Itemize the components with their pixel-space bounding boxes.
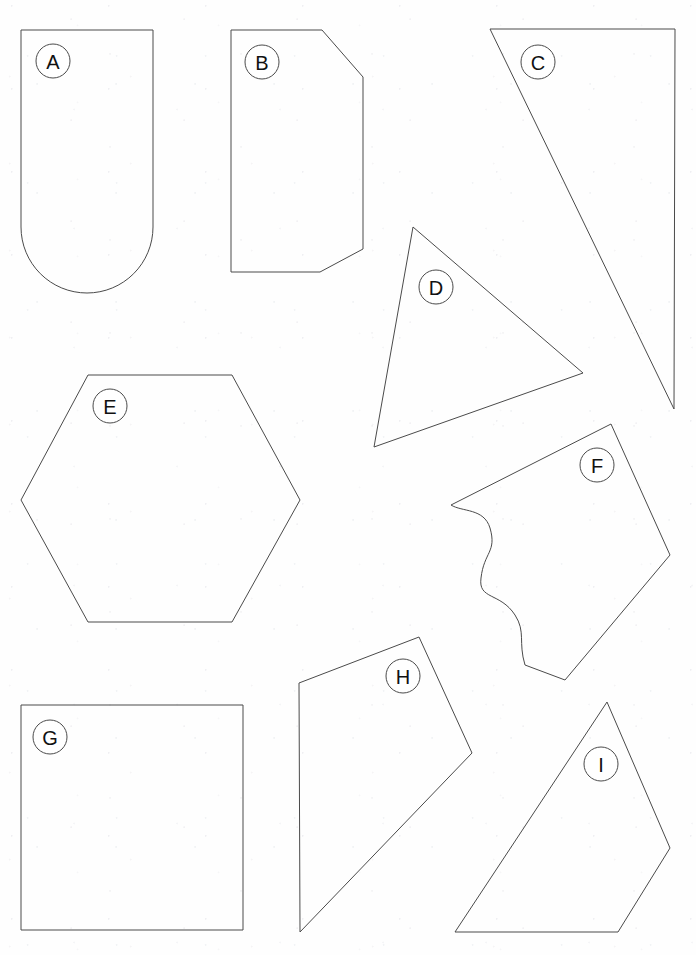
shape-a-label-badge: A: [36, 44, 70, 78]
shape-d-label-text: D: [429, 277, 443, 299]
shape-d-label-badge: D: [419, 270, 453, 304]
shape-d-outline: [374, 227, 583, 447]
shape-e-outline: [21, 375, 300, 622]
shape-h-outline: [299, 637, 472, 932]
shapes-canvas: ABCDEFGHI: [0, 0, 696, 955]
shape-h-label-badge: H: [386, 659, 420, 693]
shape-labels-group: ABCDEFGHI: [33, 44, 618, 781]
shape-i-label-text: I: [598, 754, 604, 776]
shape-f-outline: [451, 424, 670, 680]
shape-i-label-badge: I: [584, 747, 618, 781]
shape-h-label-text: H: [396, 666, 410, 688]
shape-f-label-text: F: [591, 455, 603, 477]
shape-c-outline: [490, 29, 675, 409]
shape-e-label-badge: E: [93, 389, 127, 423]
shapes-group: [21, 29, 675, 932]
shape-b-label-badge: B: [245, 45, 279, 79]
shape-c-label-text: C: [531, 52, 545, 74]
shape-f-label-badge: F: [580, 448, 614, 482]
shape-a-label-text: A: [46, 51, 60, 73]
shape-e-label-text: E: [103, 396, 116, 418]
worksheet-page: ABCDEFGHI: [0, 0, 696, 955]
shape-i-outline: [455, 702, 670, 932]
shape-g-label-text: G: [42, 727, 58, 749]
shape-g-label-badge: G: [33, 720, 67, 754]
shape-c-label-badge: C: [521, 45, 555, 79]
shape-b-label-text: B: [255, 52, 268, 74]
